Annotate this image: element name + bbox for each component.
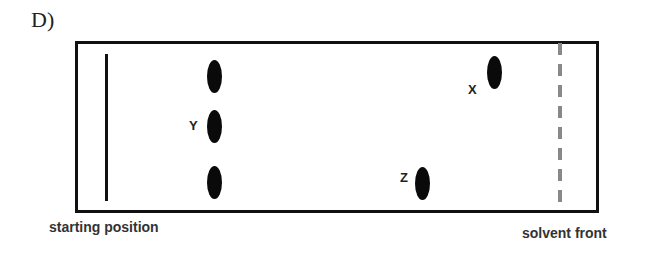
solvent-front-line (558, 43, 562, 211)
starting-position-caption: starting position (49, 219, 159, 235)
starting-line (105, 54, 108, 201)
spot-label-x: X (468, 82, 477, 97)
spot-reference-top (207, 60, 222, 93)
spot-reference-bottom (207, 166, 222, 199)
question-label: D) (31, 7, 54, 33)
spot-label-y: Y (189, 118, 198, 133)
solvent-front-caption: solvent front (522, 225, 607, 241)
chromatography-plate (75, 41, 599, 213)
spot-y (207, 110, 222, 143)
spot-x (487, 56, 502, 89)
spot-label-z: Z (400, 170, 408, 185)
spot-z (415, 167, 430, 200)
